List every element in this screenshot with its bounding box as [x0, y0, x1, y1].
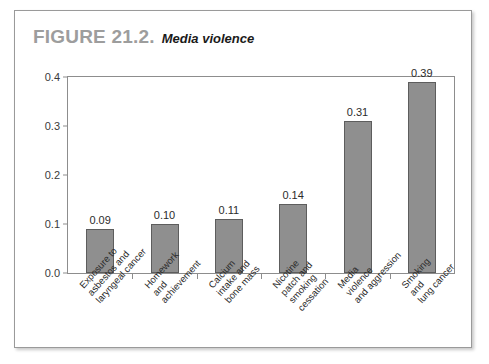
x-axis-category-labels: Exposure toasbestos andlaryngeal cancerH…: [67, 283, 455, 364]
y-axis-tick: [63, 77, 68, 78]
y-axis-tick-label: 0.3: [45, 120, 60, 132]
bar-value-label: 0.09: [89, 214, 110, 226]
x-axis-tick: [261, 273, 262, 279]
bar-value-label: 0.31: [347, 106, 368, 118]
y-axis-tick: [63, 224, 68, 225]
figure-caption: FIGURE 21.2.Media violence: [33, 27, 254, 46]
bar-value-label: 0.11: [219, 204, 240, 216]
y-axis-tick: [63, 126, 68, 127]
figure-number: FIGURE 21.2.: [33, 26, 155, 47]
y-axis-tick: [63, 175, 68, 176]
y-axis-tick-label: 0.4: [45, 71, 60, 83]
x-axis-tick: [197, 273, 198, 279]
bar-value-label: 0.14: [282, 189, 303, 201]
y-axis-tick: [63, 273, 68, 274]
figure-frame: FIGURE 21.2.Media violence 0.00.10.20.30…: [14, 10, 472, 348]
bar-value-label: 0.10: [154, 209, 175, 221]
y-axis-tick-label: 0.0: [45, 267, 60, 279]
bar-value-label: 0.39: [411, 67, 432, 79]
y-axis-tick-label: 0.1: [45, 218, 60, 230]
figure-title: Media violence: [162, 31, 254, 46]
x-axis-tick: [390, 273, 391, 279]
bar: [408, 82, 436, 273]
x-axis-tick: [132, 273, 133, 279]
y-axis-tick-label: 0.2: [45, 169, 60, 181]
